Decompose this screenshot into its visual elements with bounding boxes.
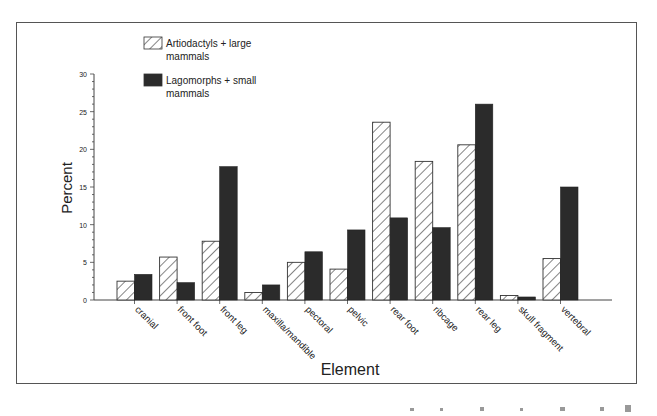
bar-lagomorphs: [262, 285, 280, 300]
legend: Artiodactyls + largemammalsLagomorphs + …: [144, 37, 256, 99]
bar-artiodactyls: [160, 257, 178, 300]
legend-label: Lagomorphs + small: [166, 75, 256, 86]
x-tick-label: rear leg: [474, 304, 505, 335]
legend-label: mammals: [166, 88, 209, 99]
bar-artiodactyls: [245, 292, 262, 300]
legend-swatch-hatched: [144, 37, 162, 49]
x-axis-label: Element: [321, 361, 380, 378]
bar-lagomorphs: [561, 187, 579, 300]
bar-artiodactyls: [330, 269, 348, 300]
x-tick-label: pelvic: [346, 304, 371, 329]
bar-artiodactyls: [458, 145, 476, 300]
y-tick-label: 5: [83, 259, 87, 266]
x-tick-label: vertebral: [559, 304, 593, 338]
legend-swatch-solid: [144, 74, 162, 86]
x-tick-label: rear foot: [389, 304, 422, 337]
y-tick-label: 30: [79, 71, 87, 78]
bar-artiodactyls: [287, 262, 305, 300]
bar-lagomorphs: [518, 297, 536, 300]
x-tick-label: ribcage: [431, 304, 461, 334]
y-tick-label: 0: [83, 297, 87, 304]
bar-lagomorphs: [220, 167, 238, 300]
bar-artiodactyls: [373, 122, 391, 300]
y-tick-label: 25: [79, 109, 87, 116]
y-tick-label: 15: [79, 184, 87, 191]
bar-artiodactyls: [543, 259, 561, 300]
x-tick-label: pectoral: [303, 304, 335, 336]
bar-artiodactyls: [415, 161, 433, 300]
bar-artiodactyls: [500, 295, 518, 300]
y-tick-label: 10: [79, 222, 87, 229]
bar-artiodactyls: [202, 241, 220, 300]
x-tick-label: cranial: [133, 304, 161, 332]
bar-lagomorphs: [305, 252, 323, 300]
legend-label: mammals: [166, 51, 209, 62]
bar-lagomorphs: [433, 228, 451, 300]
y-axis-label: Percent: [58, 161, 75, 214]
bar-lagomorphs: [348, 230, 366, 300]
bar-lagomorphs: [475, 104, 493, 300]
bar-artiodactyls: [117, 281, 135, 300]
y-tick-label: 20: [79, 146, 87, 153]
bar-lagomorphs: [135, 274, 153, 300]
bar-chart: 051015202530 cranialfront footfront legm…: [0, 0, 657, 416]
x-tick-label: front foot: [176, 304, 211, 339]
cropped-caption-fragment: [400, 402, 657, 416]
x-tick-labels: cranialfront footfront legmaxilla/mandib…: [133, 304, 593, 362]
bar-lagomorphs: [177, 283, 195, 300]
bars: [117, 104, 578, 300]
x-tick-label: front leg: [218, 304, 250, 336]
legend-label: Artiodactyls + large: [166, 38, 252, 49]
bar-lagomorphs: [390, 218, 408, 300]
